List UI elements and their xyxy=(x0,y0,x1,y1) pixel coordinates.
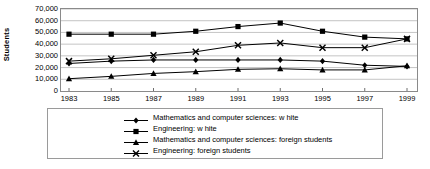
y-axis-tick-labels: 70,00060,00050,00040,00030,00020,00010,0… xyxy=(12,8,58,92)
y-axis-tick-label: 50,000 xyxy=(12,28,58,36)
legend-item: Engineering: foreign students xyxy=(124,145,332,156)
x-axis-tick-label: 1991 xyxy=(218,94,258,103)
x-axis-tick-label: 1987 xyxy=(134,94,174,103)
legend-label: Engineering: w hite xyxy=(153,124,217,133)
x-axis-tick-labels: 198319851987198919911993199519971999 xyxy=(60,94,418,106)
triangle-marker xyxy=(404,63,410,69)
y-axis-tick-label: 60,000 xyxy=(12,17,58,25)
diamond-marker xyxy=(193,57,198,63)
y-axis-tick-label: 70,000 xyxy=(12,5,58,13)
square-marker xyxy=(124,123,148,134)
y-axis-title: Students xyxy=(2,15,11,75)
y-axis-tick-label: 40,000 xyxy=(12,40,58,48)
diamond-marker xyxy=(278,57,283,63)
series-3 xyxy=(66,63,410,82)
square-marker xyxy=(151,32,156,37)
square-marker xyxy=(235,24,240,29)
y-axis-tick-label: 20,000 xyxy=(12,64,58,72)
square-marker xyxy=(66,32,71,37)
diamond-marker xyxy=(235,57,240,63)
diamond-marker xyxy=(124,112,148,123)
x-axis-tick-label: 1999 xyxy=(387,94,427,103)
square-marker xyxy=(320,29,325,34)
chart-plot-region: Students 70,00060,00050,00040,00030,0002… xyxy=(0,2,430,105)
legend-item: Mathematics and computer sciences: w hit… xyxy=(124,112,332,123)
x-axis-tick-label: 1995 xyxy=(303,94,343,103)
line-chart-figure: Students 70,00060,00050,00040,00030,0002… xyxy=(0,0,430,169)
legend-label: Mathematics and computer sciences: forei… xyxy=(153,135,332,144)
triangle-marker xyxy=(124,134,148,145)
series-2 xyxy=(66,20,409,41)
x-marker xyxy=(124,145,148,156)
y-axis-tick-label: 30,000 xyxy=(12,52,58,60)
x-axis-tick-label: 1989 xyxy=(176,94,216,103)
legend-label: Mathematics and computer sciences: w hit… xyxy=(153,113,298,122)
diamond-marker xyxy=(320,58,325,64)
legend-item: Mathematics and computer sciences: forei… xyxy=(124,134,332,145)
x-axis-tick-label: 1997 xyxy=(345,94,385,103)
square-marker xyxy=(109,32,114,37)
square-marker xyxy=(362,35,367,40)
square-marker xyxy=(278,20,283,25)
legend-label: Engineering: foreign students xyxy=(153,146,251,155)
x-axis-tick-label: 1993 xyxy=(260,94,300,103)
y-axis-tick-label: 10,000 xyxy=(12,75,58,83)
legend-item: Engineering: w hite xyxy=(124,123,332,134)
x-axis-tick-label: 1983 xyxy=(49,94,89,103)
square-marker xyxy=(193,29,198,34)
chart-legend: Mathematics and computer sciences: w hit… xyxy=(47,108,383,159)
x-axis-tick-label: 1985 xyxy=(91,94,131,103)
legend-items-list: Mathematics and computer sciences: w hit… xyxy=(124,112,332,156)
series-svg xyxy=(61,9,417,91)
plot-canvas xyxy=(60,8,418,92)
